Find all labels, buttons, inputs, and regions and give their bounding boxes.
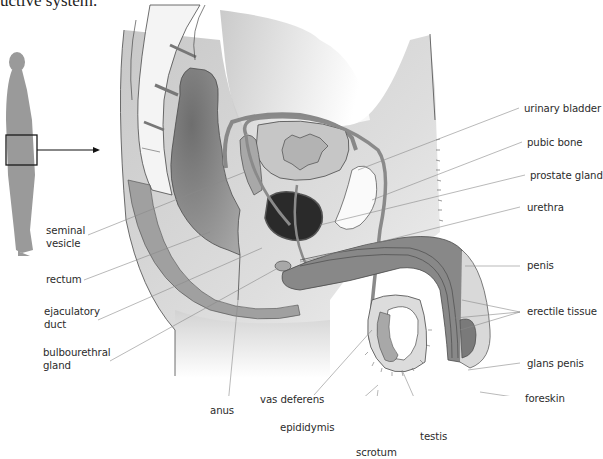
label-urinary-bladder: urinary bladder xyxy=(524,102,601,115)
label-line: gland xyxy=(43,359,111,372)
label-line: vesicle xyxy=(46,237,85,250)
label-glans-penis: glans penis xyxy=(527,357,584,370)
label-urethra: urethra xyxy=(527,201,564,214)
label-line: duct xyxy=(44,318,100,331)
label-testis: testis xyxy=(420,430,447,443)
label-anus: anus xyxy=(210,404,234,417)
label-prostate-gland: prostate gland xyxy=(530,169,603,182)
label-ejaculatory-duct: ejaculatory duct xyxy=(44,305,100,331)
label-line: seminal xyxy=(46,224,85,237)
label-penis: penis xyxy=(527,259,554,272)
human-silhouette-icon xyxy=(6,52,35,256)
label-bulbourethral-gland: bulbourethral gland xyxy=(43,346,111,372)
label-epididymis: epididymis xyxy=(280,421,334,434)
label-erectile-tissue: erectile tissue xyxy=(527,305,597,318)
label-vas-deferens: vas deferens xyxy=(260,393,324,406)
label-foreskin: foreskin xyxy=(525,392,565,405)
label-scrotum: scrotum xyxy=(356,446,397,459)
label-line: bulbourethral xyxy=(43,346,111,359)
label-rectum: rectum xyxy=(46,273,82,286)
label-pubic-bone: pubic bone xyxy=(527,136,582,149)
arrow-right-icon xyxy=(37,147,100,153)
label-line: rectum xyxy=(46,273,82,286)
label-line: ejaculatory xyxy=(44,305,100,318)
label-seminal-vesicle: seminal vesicle xyxy=(46,224,85,250)
